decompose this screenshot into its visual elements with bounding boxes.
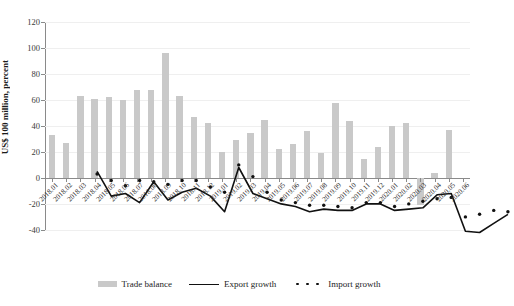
legend-item-trade-balance: Trade balance (98, 279, 172, 289)
solid-line-icon (189, 284, 219, 285)
y-tick-label: 20 (32, 148, 41, 157)
y-tick-label: -20 (29, 200, 40, 209)
bar-swatch-icon (98, 281, 117, 287)
import-growth-point (95, 172, 98, 175)
y-tick-mark (41, 230, 45, 231)
legend-item-import-growth: Import growth (293, 279, 380, 289)
import-growth-point (251, 175, 254, 178)
line-series-group (90, 44, 514, 252)
legend-item-export-growth: Export growth (189, 279, 276, 289)
import-growth-point (478, 213, 481, 216)
y-tick-label: -40 (29, 226, 40, 235)
import-growth-point (393, 205, 396, 208)
y-tick-mark (41, 126, 45, 127)
y-tick-mark (41, 100, 45, 101)
y-tick-label: 120 (27, 18, 40, 27)
legend-label-import-growth: Import growth (328, 279, 380, 289)
dotted-line-icon (293, 281, 323, 287)
bar (63, 143, 69, 178)
import-growth-point (322, 204, 325, 207)
import-growth-point (350, 206, 353, 209)
y-tick-mark (41, 204, 45, 205)
y-tick-label: 60 (32, 96, 41, 105)
y-tick-label: 100 (27, 44, 40, 53)
import-growth-point (464, 215, 467, 218)
import-growth-point (492, 209, 495, 212)
y-tick-label: 40 (32, 122, 41, 131)
y-tick-mark (41, 178, 45, 179)
import-growth-point (336, 205, 339, 208)
import-growth-point (506, 210, 509, 213)
y-tick-mark (41, 22, 45, 23)
gridline (45, 22, 470, 23)
legend-label-export-growth: Export growth (224, 279, 276, 289)
bar (49, 135, 55, 178)
import-growth-point (308, 204, 311, 207)
bar (77, 96, 83, 178)
chart-legend: Trade balance Export growth Import growt… (0, 279, 478, 289)
y-tick-mark (41, 74, 45, 75)
y-tick-mark (41, 48, 45, 49)
y-axis-title: US$ 100 million, percent (1, 60, 15, 154)
y-tick-label: 0 (36, 174, 40, 183)
legend-label-trade-balance: Trade balance (122, 279, 172, 289)
y-tick-mark (41, 152, 45, 153)
y-tick-label: 80 (32, 70, 41, 79)
import-growth-point (237, 163, 240, 166)
